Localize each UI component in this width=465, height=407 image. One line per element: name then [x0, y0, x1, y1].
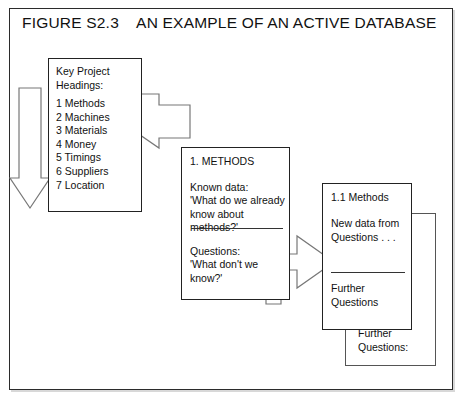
- methods-sub-new-data-text: New data from Questions . . .: [331, 217, 413, 244]
- methods-questions-label: Questions:: [190, 245, 290, 259]
- methods-box-divider: [191, 228, 283, 229]
- methods-sub-box-title: 1.1 Methods: [331, 191, 411, 205]
- key-project-heading-label: Key Project Headings:: [56, 65, 142, 92]
- figure-title: FIGURE S2.3 AN EXAMPLE OF AN ACTIVE DATA…: [22, 14, 437, 32]
- methods-sub-box[interactable]: 1.1 Methods New data from Questions . . …: [322, 183, 412, 330]
- methods-box[interactable]: 1. METHODS Known data: 'What do we alrea…: [181, 147, 290, 300]
- key-project-item-2: 2 Machines: [56, 111, 142, 125]
- key-project-item-5: 5 Timings: [56, 151, 142, 165]
- figure-canvas: FIGURE S2.3 AN EXAMPLE OF AN ACTIVE DATA…: [0, 0, 465, 407]
- methods-questions-text: 'What don't we know?': [190, 258, 290, 285]
- key-project-headings-box[interactable]: Key Project Headings: 1 Methods 2 Machin…: [48, 58, 142, 212]
- key-project-item-7: 7 Location: [56, 179, 142, 193]
- key-project-item-3: 3 Materials: [56, 124, 142, 138]
- methods-sub-further-questions-text: Further Questions: [331, 282, 411, 309]
- methods-known-data-label: Known data:: [190, 181, 290, 195]
- methods-box-title: 1. METHODS: [190, 155, 288, 169]
- key-project-item-6: 6 Suppliers: [56, 165, 142, 179]
- further-questions-back-card-text: Further Questions:: [358, 327, 436, 354]
- key-project-item-4: 4 Money: [56, 138, 142, 152]
- methods-sub-box-divider: [331, 272, 405, 273]
- key-project-item-1: 1 Methods: [56, 97, 142, 111]
